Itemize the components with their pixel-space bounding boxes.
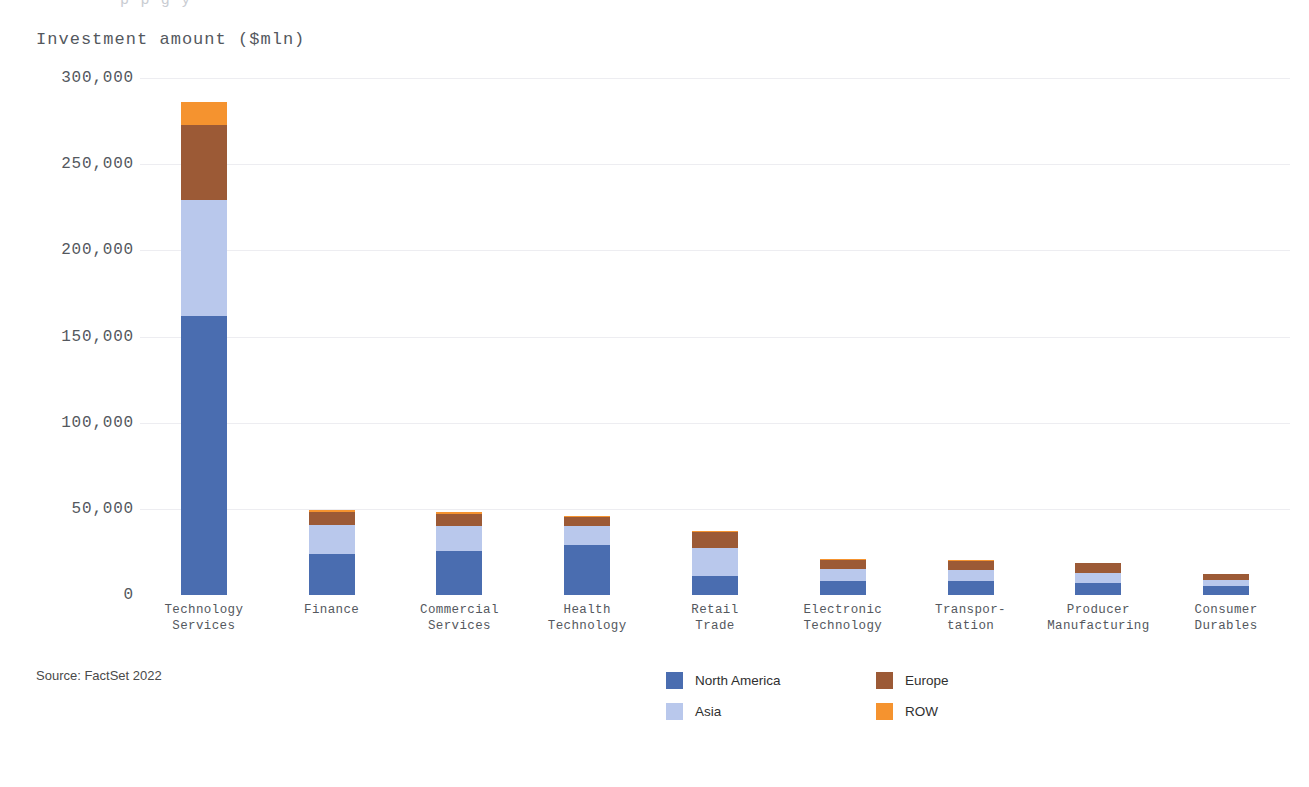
bar-segment-europe[interactable] [309,512,355,525]
plot-area: 050,000100,000150,000200,000250,000300,0… [140,78,1290,595]
legend-item[interactable]: Europe [876,672,1046,689]
bar-segment-europe[interactable] [1075,563,1121,572]
bar-segment-north-america[interactable] [309,554,355,595]
bar-segment-europe[interactable] [820,560,866,569]
bar-segment-north-america[interactable] [181,316,227,595]
x-axis-category-label: Technology Services [164,602,243,634]
bar-segment-europe[interactable] [692,532,738,548]
legend-label: North America [695,673,781,688]
bar-stack[interactable] [1203,78,1249,595]
chart-legend: North AmericaEuropeAsiaROW [666,672,1046,720]
x-axis-category-label: Finance [304,602,359,618]
y-axis-tick-label: 300,000 [61,69,134,87]
bar-segment-asia[interactable] [436,526,482,551]
legend-swatch-icon [876,703,893,720]
bar-series-container [140,78,1290,595]
y-axis-tick-label: 200,000 [61,241,134,259]
legend-item[interactable]: Asia [666,703,836,720]
bar-stack[interactable] [820,78,866,595]
bar-segment-north-america[interactable] [692,576,738,595]
bar-segment-north-america[interactable] [436,551,482,595]
bar-segment-asia[interactable] [564,526,610,545]
bar-segment-europe[interactable] [181,125,227,201]
clipped-header-text: p p g y [120,0,1020,10]
bar-stack[interactable] [692,78,738,595]
legend-label: Asia [695,704,721,719]
bar-segment-north-america[interactable] [564,545,610,595]
y-axis-tick-label: 150,000 [61,328,134,346]
bar-stack[interactable] [309,78,355,595]
bar-stack[interactable] [181,78,227,595]
bar-segment-asia[interactable] [692,548,738,576]
bar-segment-asia[interactable] [181,200,227,315]
bar-segment-europe[interactable] [564,517,610,526]
x-axis-category-label: Health Technology [548,602,627,634]
bar-stack[interactable] [948,78,994,595]
bar-segment-europe[interactable] [948,561,994,570]
bar-segment-north-america[interactable] [1075,583,1121,595]
bar-segment-europe[interactable] [436,514,482,526]
bar-stack[interactable] [564,78,610,595]
x-axis-category-label: Commercial Services [420,602,499,634]
legend-label: ROW [905,704,938,719]
x-axis-category-label: Electronic Technology [803,602,882,634]
chart-page: p p g y Investment amount ($mln) 050,000… [0,0,1309,787]
bar-stack[interactable] [1075,78,1121,595]
bar-segment-asia[interactable] [1075,573,1121,583]
bar-segment-north-america[interactable] [948,581,994,595]
chart-title: Investment amount ($mln) [36,30,305,49]
bar-segment-row[interactable] [181,102,227,124]
legend-label: Europe [905,673,949,688]
bar-segment-north-america[interactable] [820,581,866,595]
bar-segment-north-america[interactable] [1203,586,1249,595]
legend-swatch-icon [666,672,683,689]
legend-swatch-icon [666,703,683,720]
y-axis-tick-label: 250,000 [61,155,134,173]
source-note: Source: FactSet 2022 [36,668,162,683]
y-axis-tick-label: 50,000 [72,500,134,518]
legend-item[interactable]: North America [666,672,836,689]
y-axis-tick-label: 0 [124,586,134,604]
bar-segment-asia[interactable] [309,525,355,553]
bar-stack[interactable] [436,78,482,595]
bar-segment-asia[interactable] [820,569,866,581]
legend-item[interactable]: ROW [876,703,1046,720]
bar-segment-asia[interactable] [948,570,994,581]
x-axis-category-label: Consumer Durables [1195,602,1258,634]
x-axis-category-label: Retail Trade [691,602,738,634]
x-axis-category-label: Producer Manufacturing [1047,602,1149,634]
legend-swatch-icon [876,672,893,689]
x-axis-category-label: Transpor- tation [935,602,1006,634]
y-axis-tick-label: 100,000 [61,414,134,432]
